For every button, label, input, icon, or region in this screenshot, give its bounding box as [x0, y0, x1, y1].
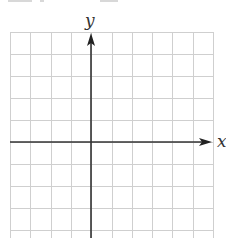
- cropped-text-fragments: [8, 0, 118, 2]
- text-fragment: [40, 0, 44, 2]
- coordinate-plane: x y: [0, 0, 226, 238]
- text-fragment: [8, 0, 32, 2]
- y-axis-label: y: [84, 10, 95, 30]
- text-fragment: [100, 0, 118, 2]
- coordinate-plane-svg: x y: [0, 0, 226, 238]
- x-axis-label: x: [217, 131, 226, 151]
- axes: [10, 33, 212, 238]
- grid-lines: [10, 32, 214, 238]
